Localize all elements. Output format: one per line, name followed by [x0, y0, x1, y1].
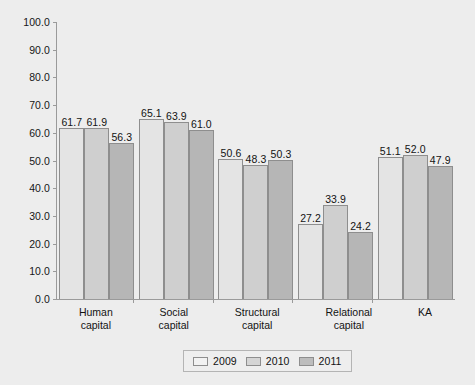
- legend-item[interactable]: 2011: [299, 355, 342, 367]
- y-axis-tick: 100.0: [23, 16, 57, 28]
- x-axis-tick: [213, 299, 214, 303]
- y-axis-tick: 20.0: [29, 238, 57, 250]
- bar[interactable]: 61.7: [59, 128, 84, 299]
- bar[interactable]: 51.1: [378, 157, 403, 299]
- legend-swatch: [246, 357, 261, 366]
- bar[interactable]: 50.6: [218, 159, 243, 299]
- legend-swatch: [299, 357, 314, 366]
- x-axis-label: Human capital: [79, 306, 113, 331]
- y-axis-tick: 30.0: [29, 210, 57, 222]
- bar-value-label: 52.0: [405, 143, 426, 155]
- x-axis-label: KA: [418, 306, 432, 331]
- bar[interactable]: 27.2: [298, 224, 323, 299]
- y-axis-tick: 60.0: [29, 127, 57, 139]
- x-axis-labels: Human capitalSocial capitalStructural ca…: [56, 306, 455, 331]
- bar-wrap: 51.152.047.9: [378, 22, 453, 299]
- bar[interactable]: 61.9: [84, 128, 109, 299]
- legend-label: 2011: [319, 355, 342, 367]
- bar-chart: 100.090.080.070.060.050.040.030.020.010.…: [0, 0, 475, 385]
- bar-wrap: 27.233.924.2: [298, 22, 373, 299]
- x-axis-tick: [133, 299, 134, 303]
- bar-value-label: 61.9: [86, 116, 107, 128]
- y-axis-tick: 0.0: [35, 293, 57, 305]
- bar-value-label: 27.2: [300, 212, 321, 224]
- y-axis-tick: 80.0: [29, 71, 57, 83]
- bar-value-label: 51.1: [380, 145, 401, 157]
- bar-value-label: 65.1: [141, 107, 162, 119]
- legend-item[interactable]: 2009: [193, 355, 237, 367]
- bar-group: 27.233.924.2: [298, 22, 373, 299]
- bar[interactable]: 61.0: [189, 130, 214, 299]
- y-axis-tick: 10.0: [29, 265, 57, 277]
- bar-groups: 61.761.956.365.163.961.050.648.350.327.2…: [57, 22, 455, 299]
- x-axis-tick: [292, 299, 293, 303]
- x-axis-tick: [372, 299, 373, 303]
- bar[interactable]: 65.1: [139, 119, 164, 299]
- bar-group: 51.152.047.9: [378, 22, 453, 299]
- bar[interactable]: 47.9: [428, 166, 453, 299]
- x-axis-label: Relational capital: [326, 306, 373, 331]
- legend-label: 2009: [213, 355, 237, 367]
- y-axis-tick: 50.0: [29, 155, 57, 167]
- bar-value-label: 33.9: [325, 193, 346, 205]
- bar-wrap: 65.163.961.0: [139, 22, 214, 299]
- bar[interactable]: 48.3: [243, 165, 268, 299]
- legend-label: 2010: [266, 355, 290, 367]
- bar-group: 65.163.961.0: [139, 22, 214, 299]
- bar-group: 61.761.956.3: [59, 22, 134, 299]
- bar-value-label: 63.9: [166, 110, 187, 122]
- bar-wrap: 50.648.350.3: [218, 22, 293, 299]
- bar[interactable]: 56.3: [109, 143, 134, 299]
- bar-value-label: 50.3: [271, 148, 292, 160]
- y-axis-tick: 90.0: [29, 44, 57, 56]
- bar-value-label: 61.0: [191, 118, 212, 130]
- x-axis-label: Social capital: [159, 306, 189, 331]
- bar-value-label: 61.7: [61, 116, 82, 128]
- legend-item[interactable]: 2010: [246, 355, 290, 367]
- bar-value-label: 48.3: [246, 153, 267, 165]
- bar-value-label: 47.9: [430, 154, 451, 166]
- bar[interactable]: 33.9: [323, 205, 348, 299]
- legend-swatch: [193, 357, 208, 366]
- plot-area: 100.090.080.070.060.050.040.030.020.010.…: [56, 22, 455, 300]
- bar-value-label: 24.2: [350, 220, 371, 232]
- bar[interactable]: 50.3: [268, 160, 293, 299]
- bar[interactable]: 24.2: [348, 232, 373, 299]
- chart-legend: 200920102011: [183, 350, 352, 372]
- x-axis-label: Structural capital: [235, 306, 280, 331]
- y-axis-tick: 70.0: [29, 99, 57, 111]
- bar-value-label: 56.3: [111, 131, 132, 143]
- bar[interactable]: 63.9: [164, 122, 189, 299]
- bar-wrap: 61.761.956.3: [59, 22, 134, 299]
- bar-group: 50.648.350.3: [218, 22, 293, 299]
- bar-value-label: 50.6: [221, 147, 242, 159]
- y-axis-tick: 40.0: [29, 182, 57, 194]
- bar[interactable]: 52.0: [403, 155, 428, 299]
